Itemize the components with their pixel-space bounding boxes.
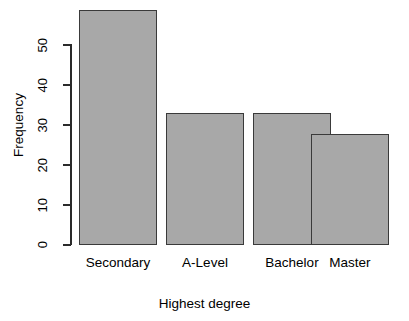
chart-title-clipped xyxy=(0,0,409,8)
bar-a-level xyxy=(166,113,244,245)
y-tick-label-30-wrap: 30 xyxy=(36,112,62,138)
bar-master xyxy=(311,134,389,245)
y-tick-label-10-wrap: 10 xyxy=(36,192,62,218)
bar-secondary xyxy=(79,10,157,245)
y-tick-0 xyxy=(63,244,71,246)
x-label-secondary: Secondary xyxy=(79,255,157,270)
y-tick-label-0: 0 xyxy=(36,241,62,248)
y-tick-label-0-wrap: 0 xyxy=(36,232,62,258)
y-tick-label-40-wrap: 40 xyxy=(36,72,62,98)
y-axis-line xyxy=(70,44,72,245)
y-tick-label-50: 50 xyxy=(36,38,62,52)
y-axis-title: Frequency xyxy=(12,80,26,170)
y-tick-label-20-wrap: 20 xyxy=(36,152,62,178)
y-tick-label-30: 30 xyxy=(36,118,62,132)
y-tick-10 xyxy=(63,204,71,206)
y-tick-label-40: 40 xyxy=(36,78,62,92)
y-tick-label-50-wrap: 50 xyxy=(36,32,62,58)
y-tick-20 xyxy=(63,164,71,166)
y-tick-label-10: 10 xyxy=(36,198,62,212)
y-tick-40 xyxy=(63,84,71,86)
y-tick-30 xyxy=(63,124,71,126)
y-tick-50 xyxy=(63,44,71,46)
x-label-master: Master xyxy=(311,255,389,270)
bar-chart: Frequency 0 10 20 30 40 50 Secondary A-L… xyxy=(0,0,409,321)
y-tick-label-20: 20 xyxy=(36,158,62,172)
x-axis-title: Highest degree xyxy=(0,296,409,311)
x-label-a-level: A-Level xyxy=(166,255,244,270)
plot-area xyxy=(79,10,389,245)
